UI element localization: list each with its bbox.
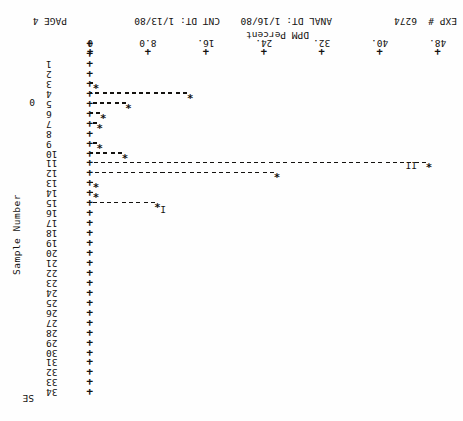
printout-page: ************ +++++++++++++++++++++++++++… [0,0,463,421]
zero-reference-label: 0 [29,97,35,107]
data-point-marker: * [187,89,194,99]
y-axis-label: 29 [46,338,62,348]
footer-page: PAGE 4 [33,16,67,27]
y-axis-label: 26 [46,308,62,318]
data-point-marker: * [96,119,103,129]
y-axis-label: 24 [46,288,62,298]
group-label-two: II [406,160,417,170]
x-axis-tick: + [432,48,444,58]
y-axis-label: 4 [46,89,62,99]
y-axis-label: 14 [46,188,62,198]
rotated-page-content: ************ +++++++++++++++++++++++++++… [0,0,463,421]
y-axis-label: 27 [46,318,62,328]
y-axis-label: 13 [46,178,62,188]
y-axis-label: 12 [46,168,62,178]
x-axis-tick: + [258,48,270,58]
y-axis-label: 28 [46,328,62,338]
footer-count-date: CNT DT: 1/13/80 [134,16,220,27]
bar-dashes [90,158,426,168]
y-axis-label: 21 [46,258,62,268]
footer-exp-label: EXP # [428,16,457,27]
y-axis-label: 33 [46,377,62,387]
data-point-marker: * [274,168,281,178]
y-axis-label: 31 [46,358,62,368]
x-axis-tick-label: 40. [366,38,394,48]
x-axis-tick-label: 32. [308,38,336,48]
se-label: SE [23,393,34,403]
bar-dashes [90,197,155,207]
x-axis-tick: + [200,48,212,58]
y-axis-label: 15 [46,198,62,208]
x-axis-tick-label: 0 [76,38,104,48]
x-axis-tick: + [374,48,386,58]
y-axis-label: 11 [46,159,62,169]
y-axis-label: 6 [46,109,62,119]
data-point-marker: * [125,99,132,109]
y-axis-label: 17 [46,218,62,228]
y-axis-label: 19 [46,238,62,248]
y-axis-label: 32 [46,367,62,377]
y-axis-tick: + [86,387,93,397]
x-axis-tick-label: 8.0 [134,38,162,48]
y-axis-label: 2 [46,69,62,79]
bar-dashes [90,88,187,98]
y-axis-label: 30 [46,348,62,358]
bar-dashes [90,98,126,108]
y-axis-label: 1 [46,59,62,69]
y-axis-label: 25 [46,298,62,308]
x-axis-tick-label: 48. [424,38,452,48]
y-axis-title: Sample Number [11,194,22,275]
y-axis-label: 20 [46,248,62,258]
footer-anal-date: ANAL DT: 1/16/80 [240,16,332,27]
y-axis-label: 5 [46,99,62,109]
printout-sheet: ************ +++++++++++++++++++++++++++… [0,0,463,421]
y-axis-label: 22 [46,268,62,278]
y-axis-label: 23 [46,278,62,288]
y-axis-label: 9 [46,139,62,149]
y-axis-label: 10 [46,149,62,159]
y-axis-label: 18 [46,228,62,238]
y-axis-label: 16 [46,208,62,218]
bar-dashes [90,148,122,158]
footer-exp-value: 6274 [394,16,417,27]
x-axis-tick: + [316,48,328,58]
x-axis-tick: + [84,48,96,58]
x-axis-tick: + [142,48,154,58]
group-label-one: I [160,204,166,214]
y-axis-label: 8 [46,129,62,139]
data-point-marker: * [426,159,433,169]
y-axis-label: 34 [46,387,62,397]
y-axis-label: 3 [46,79,62,89]
bar-dashes [90,167,274,177]
x-axis-tick-label: 16. [192,38,220,48]
x-axis-title: DPM Percent [246,30,309,40]
y-axis-label: 7 [46,119,62,129]
